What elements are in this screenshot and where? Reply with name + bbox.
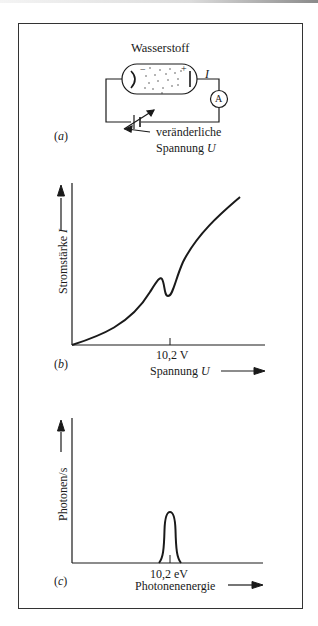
- y-axis-label-b: Stromstärke I: [57, 229, 69, 294]
- x-axis-label-c: Photonenenergie: [135, 580, 215, 592]
- arrow-up-icon: [58, 420, 65, 431]
- chart-b: [58, 183, 266, 375]
- y-axis-label-b-word: Stromstärke: [56, 236, 70, 294]
- current-voltage-curve: [72, 197, 240, 345]
- arrow-up-icon: [58, 185, 65, 196]
- x-axis-label-b-word: Spannung: [150, 364, 198, 378]
- panel-a-letter: a: [58, 129, 64, 143]
- gas-particles: [144, 67, 181, 93]
- panel-b-letter: b: [58, 357, 64, 371]
- y-axis-symbol-b: I: [56, 229, 70, 233]
- source-symbol: U: [207, 141, 216, 155]
- ammeter-label: A: [215, 94, 222, 104]
- gas-label: Wasserstoff: [131, 42, 189, 55]
- y-axis-label-c: Photonen/s: [57, 468, 69, 521]
- figure-drawing: [0, 0, 318, 626]
- arrow-right-icon: [252, 582, 263, 589]
- panel-c-label: (c): [54, 575, 67, 587]
- tick-label-b: 10,2 V: [156, 349, 188, 361]
- anode-sign: +: [181, 64, 187, 74]
- panel-a-label: (a): [54, 130, 68, 142]
- panel-c-letter: c: [58, 574, 63, 588]
- arrow-right-icon: [254, 368, 265, 375]
- cathode-sign: −: [140, 65, 146, 75]
- source-label-line2: Spannung U: [156, 142, 216, 154]
- source-label-word: Spannung: [156, 141, 204, 155]
- chart-c: [58, 418, 264, 589]
- x-axis-symbol-b: U: [201, 364, 210, 378]
- cathode-icon: [131, 71, 135, 88]
- panel-b-label: (b): [54, 358, 68, 370]
- variable-voltage-source-icon: [124, 110, 154, 132]
- current-symbol: I: [205, 68, 209, 80]
- source-label-line1: veränderliche: [156, 126, 221, 138]
- x-axis-label-b: Spannung U: [150, 365, 210, 377]
